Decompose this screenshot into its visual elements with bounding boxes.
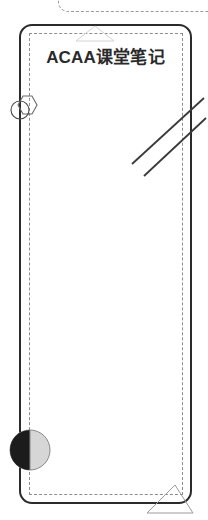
corner-triangle-icon (145, 483, 201, 520)
design-canvas: ACAA课堂笔记 (0, 0, 208, 520)
hexagon-circle-icon (5, 92, 45, 126)
top-dashed-frame (58, 0, 208, 12)
half-filled-circle (8, 428, 52, 472)
diagonal-lines-decoration (128, 88, 208, 180)
ghost-triangle-icon (74, 25, 116, 42)
page-title: ACAA课堂笔记 (19, 43, 192, 68)
